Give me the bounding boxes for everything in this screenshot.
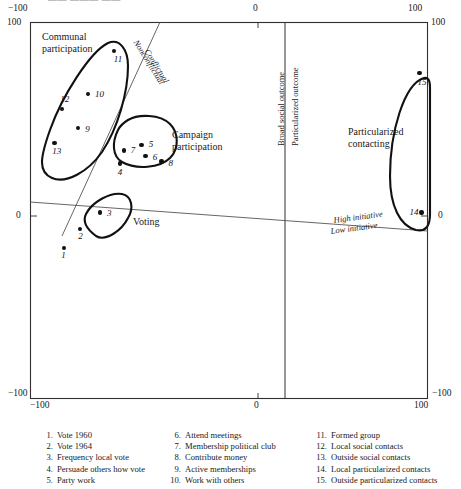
data-point-13[interactable] — [52, 141, 56, 145]
data-point-label-1: 1 — [61, 250, 66, 260]
legend: 1.Vote 1960 2.Vote 1964 3.Frequency loca… — [38, 430, 450, 486]
legend-item: 14.Local particularized contacts — [312, 464, 450, 475]
legend-item-label: Vote 1960 — [57, 430, 92, 440]
axis-label-bottom-right-inner: 100 — [414, 401, 428, 411]
legend-item-number: 12. — [312, 441, 327, 452]
legend-item: 4.Persuade others how vote — [38, 464, 166, 475]
legend-item: 3.Frequency local vote — [38, 452, 166, 463]
data-point-label-11: 11 — [114, 54, 122, 64]
legend-item: 11.Formed group — [312, 430, 450, 441]
legend-item-number: 13. — [312, 452, 327, 463]
data-point-8[interactable] — [159, 159, 163, 163]
legend-item-number: 1. — [38, 430, 53, 441]
legend-column-2: 6.Attend meetings 7.Membership political… — [166, 430, 312, 486]
legend-item-label: Local particularized contacts — [331, 464, 430, 474]
data-point-label-14: 14 — [410, 207, 419, 217]
axis-label-bottom-left-inner: −100 — [30, 401, 50, 411]
axis-label-top-center: 0 — [253, 4, 258, 14]
legend-item: 10.Work with others — [166, 475, 312, 486]
axis-label-top-right-outer: 100 — [408, 4, 422, 14]
data-point-4[interactable] — [118, 161, 122, 165]
data-point-label-2: 2 — [78, 231, 83, 241]
legend-item: 12.Local social contacts — [312, 441, 450, 452]
axis-label-right-middle: 0 — [438, 211, 443, 221]
data-point-11[interactable] — [112, 49, 116, 53]
data-point-14[interactable] — [419, 210, 423, 214]
legend-item-label: Attend meetings — [185, 430, 242, 440]
legend-item-label: Outside social contacts — [331, 452, 410, 462]
legend-item-label: Frequency local vote — [57, 452, 129, 462]
legend-column-3: 11.Formed group 12.Local social contacts… — [312, 430, 450, 486]
legend-item: 9.Active memberships — [166, 464, 312, 475]
cluster-hull-campaign — [114, 116, 177, 167]
legend-item-label: Contribute money — [185, 452, 247, 462]
legend-item-label: Party work — [57, 475, 95, 485]
legend-item-number: 5. — [38, 475, 53, 486]
data-point-label-6: 6 — [153, 152, 158, 162]
legend-item-label: Local social contacts — [331, 441, 403, 451]
legend-item-number: 6. — [166, 430, 181, 441]
figure-scatter-plot: —— ——— —— −100 100 0 100 100 0 0 −100 − — [0, 0, 461, 489]
axis-label-bottom-right-outer: −100 — [432, 389, 452, 399]
legend-item-number: 8. — [166, 452, 181, 463]
data-point-label-8: 8 — [169, 158, 174, 168]
legend-item-number: 9. — [166, 464, 181, 475]
legend-item-number: 15. — [312, 475, 327, 486]
data-point-label-9: 9 — [85, 124, 90, 134]
axis-caption-broad-social-outcome: Broad social outcome — [276, 72, 286, 146]
legend-item-label: Vote 1964 — [57, 441, 92, 451]
axis-label-left-middle: 0 — [16, 211, 21, 221]
legend-column-1: 1.Vote 1960 2.Vote 1964 3.Frequency loca… — [38, 430, 166, 486]
legend-item-number: 7. — [166, 441, 181, 452]
cluster-label-particularized: Particularized contacting — [348, 126, 404, 149]
axis-label-bottom-left-outer: −100 — [8, 389, 28, 399]
legend-item: 13.Outside social contacts — [312, 452, 450, 463]
legend-item-label: Persuade others how vote — [57, 464, 145, 474]
legend-item: 8.Contribute money — [166, 452, 312, 463]
data-point-3[interactable] — [98, 210, 102, 214]
legend-item-label: Work with others — [185, 475, 244, 485]
data-point-5[interactable] — [139, 143, 143, 147]
cluster-label-communal: Communal participation — [42, 31, 93, 54]
data-point-6[interactable] — [143, 154, 147, 158]
data-point-label-13: 13 — [52, 146, 61, 156]
legend-item-label: Formed group — [331, 430, 380, 440]
data-point-label-3: 3 — [107, 208, 112, 218]
legend-item: 6.Attend meetings — [166, 430, 312, 441]
legend-item-number: 2. — [38, 441, 53, 452]
legend-item: 2.Vote 1964 — [38, 441, 166, 452]
data-point-label-15: 15 — [418, 77, 427, 87]
cluster-label-campaign: Campaign participation — [172, 129, 223, 152]
axis-label-top-left-outer: −100 — [8, 4, 28, 14]
axis-label-top-left-inner: 100 — [7, 18, 21, 28]
data-point-label-12: 12 — [60, 94, 69, 104]
cluster-label-voting: Voting — [133, 216, 160, 228]
data-point-label-4: 4 — [118, 167, 123, 177]
legend-item-number: 11. — [312, 430, 327, 441]
legend-item: 5.Party work — [38, 475, 166, 486]
data-point-label-10: 10 — [95, 89, 104, 99]
legend-item-number: 14. — [312, 464, 327, 475]
legend-item: 15.Outside particularized contacts — [312, 475, 450, 486]
axis-label-top-right-inner: 100 — [431, 18, 445, 28]
data-point-label-7: 7 — [131, 145, 136, 155]
plot-vector-layer — [0, 0, 461, 489]
legend-item-label: Active memberships — [185, 464, 256, 474]
legend-item-label: Membership political club — [185, 441, 276, 451]
legend-item-label: Outside particularized contacts — [331, 475, 437, 485]
legend-item-number: 3. — [38, 452, 53, 463]
legend-item: 7.Membership political club — [166, 441, 312, 452]
legend-item-number: 4. — [38, 464, 53, 475]
legend-item-number: 10. — [166, 475, 181, 486]
legend-item: 1.Vote 1960 — [38, 430, 166, 441]
data-point-7[interactable] — [122, 148, 126, 152]
axis-caption-particularized-outcome: Particularized outcome — [290, 67, 300, 146]
axis-label-bottom-center: 0 — [254, 401, 259, 411]
data-point-label-5: 5 — [149, 139, 154, 149]
